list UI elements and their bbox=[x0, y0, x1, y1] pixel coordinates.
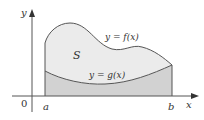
y-axis-label: y bbox=[20, 7, 27, 18]
x-axis-arrow-icon bbox=[191, 93, 199, 99]
origin-label: 0 bbox=[21, 98, 27, 109]
g-curve-label: y = g(x) bbox=[88, 70, 126, 80]
f-curve-label: y = f(x) bbox=[104, 32, 139, 42]
area-between-curves-diagram: y x 0 a b S y = f(x) y = g(x) bbox=[0, 0, 204, 120]
region-s-label: S bbox=[73, 49, 81, 62]
y-axis-arrow-icon bbox=[29, 9, 35, 17]
x-axis-label: x bbox=[186, 99, 192, 110]
diagram-svg: y x 0 a b S y = f(x) y = g(x) bbox=[0, 0, 204, 120]
a-label: a bbox=[43, 101, 49, 112]
b-label: b bbox=[168, 101, 174, 112]
